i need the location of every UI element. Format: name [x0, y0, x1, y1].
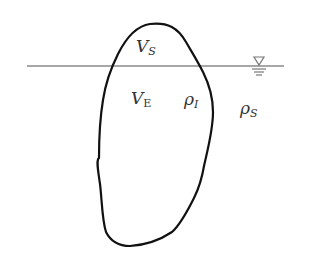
iceberg-diagram: VS VE ρI ρS — [0, 0, 311, 263]
ice-density-label: ρI — [184, 91, 198, 110]
emerged-volume-label: VE — [131, 90, 151, 109]
submerged-volume-label: VS — [136, 38, 156, 57]
water-density-label: ρS — [240, 100, 258, 119]
